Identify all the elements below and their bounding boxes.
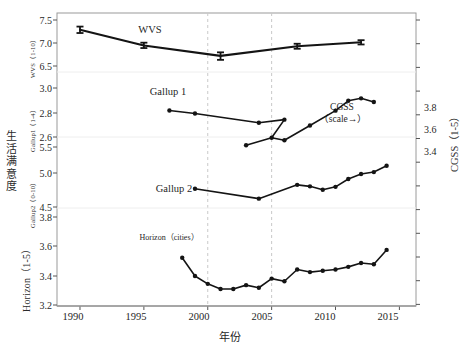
- tickmarks: [53, 20, 420, 310]
- panel-separators: [57, 72, 416, 208]
- gridlines: [208, 13, 272, 306]
- plot-area: [0, 0, 462, 356]
- chart-container: 生 活 满 意 度 WVS（1-10） Gallup1（1-4） Gallup2…: [0, 0, 462, 356]
- series-layer: [76, 27, 388, 292]
